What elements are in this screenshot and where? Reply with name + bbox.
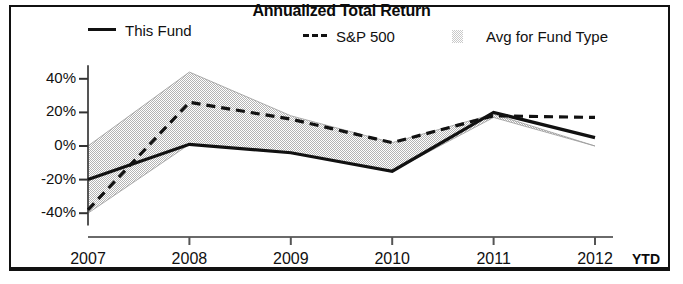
y-tick-label: 20% [22,102,76,119]
y-axis [79,65,88,225]
x-tick-label: 2007 [53,250,123,268]
x-tick-label: 2011 [459,250,529,268]
x-tick-label: 2009 [256,250,326,268]
y-tick-label: 0% [22,136,76,153]
x-tick-label: 2012 [560,250,630,268]
chart-screenshot: Annualized Total Return This Fund S&P 50… [0,0,683,284]
plot-svg [0,0,683,284]
plot-area: 40%20%0%-20%-40% 20072008200920102011201… [0,0,683,284]
x-tick-label: 2010 [357,250,427,268]
y-tick-label: -40% [22,203,76,220]
y-tick-label: -20% [22,170,76,187]
avg-fund-type-band [88,72,595,213]
y-tick-label: 40% [22,69,76,86]
x-axis-ytd-label: YTD [632,251,660,267]
x-tick-label: 2008 [154,250,224,268]
x-axis [88,237,613,245]
